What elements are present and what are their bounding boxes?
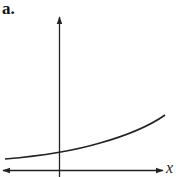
growth-curve <box>5 115 165 159</box>
x-axis-label: x <box>166 159 173 177</box>
graph <box>0 0 176 177</box>
